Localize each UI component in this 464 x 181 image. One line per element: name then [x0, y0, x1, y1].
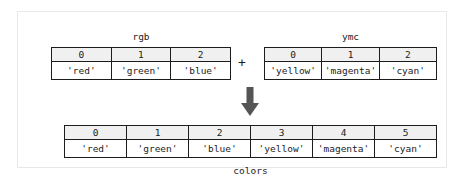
ymc-array-label: ymc	[264, 32, 437, 42]
rgb-array-table: 0 1 2 'red' 'green' 'blue'	[51, 47, 231, 80]
ymc-array-table: 0 1 2 'yellow' 'magenta' 'cyan'	[264, 47, 437, 80]
ymc-value-row: 'yellow' 'magenta' 'cyan'	[265, 62, 437, 80]
ymc-value-cell: 'cyan'	[379, 62, 436, 80]
colors-value-row: 'red' 'green' 'blue' 'yellow' 'magenta' …	[65, 140, 437, 158]
rgb-array-label: rgb	[51, 32, 231, 42]
rgb-value-row: 'red' 'green' 'blue'	[52, 62, 231, 80]
figure-frame: rgb 0 1 2 'red' 'green' 'blue' + ymc 0 1…	[17, 11, 447, 168]
plus-operator: +	[233, 56, 251, 69]
colors-value-cell: 'blue'	[189, 140, 251, 158]
ymc-value-cell: 'yellow'	[265, 62, 322, 80]
colors-index-cell: 2	[189, 126, 251, 140]
colors-index-row: 0 1 2 3 4 5	[65, 126, 437, 140]
ymc-index-cell: 0	[265, 48, 322, 62]
ymc-index-cell: 1	[322, 48, 379, 62]
rgb-index-row: 0 1 2	[52, 48, 231, 62]
colors-value-cell: 'magenta'	[313, 140, 375, 158]
rgb-index-cell: 2	[171, 48, 231, 62]
colors-index-cell: 0	[65, 126, 127, 140]
colors-index-cell: 1	[127, 126, 189, 140]
colors-index-cell: 4	[313, 126, 375, 140]
rgb-value-cell: 'blue'	[171, 62, 231, 80]
rgb-index-cell: 0	[52, 48, 112, 62]
rgb-value-cell: 'green'	[111, 62, 171, 80]
colors-value-cell: 'cyan'	[375, 140, 437, 158]
colors-index-cell: 3	[251, 126, 313, 140]
rgb-value-cell: 'red'	[52, 62, 112, 80]
ymc-index-row: 0 1 2	[265, 48, 437, 62]
down-arrow-icon	[236, 87, 264, 117]
colors-value-cell: 'red'	[65, 140, 127, 158]
colors-index-cell: 5	[375, 126, 437, 140]
colors-value-cell: 'yellow'	[251, 140, 313, 158]
ymc-value-cell: 'magenta'	[322, 62, 379, 80]
ymc-index-cell: 2	[379, 48, 436, 62]
colors-array-table: 0 1 2 3 4 5 'red' 'green' 'blue' 'yellow…	[64, 125, 437, 158]
colors-array-label: colors	[64, 166, 437, 176]
rgb-index-cell: 1	[111, 48, 171, 62]
colors-value-cell: 'green'	[127, 140, 189, 158]
